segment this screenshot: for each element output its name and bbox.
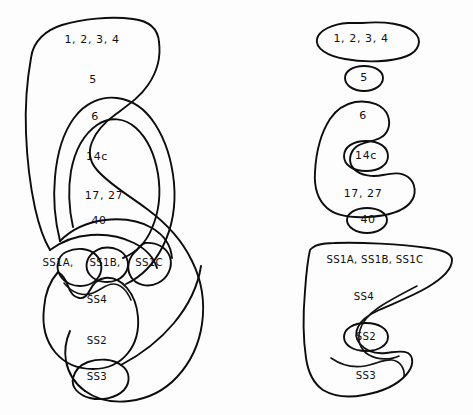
label-area-ss3-left: SS3 [87,371,107,382]
label-areas-1-2-3-4-left: 1, 2, 3, 4 [65,33,120,46]
label-area-ss2-left: SS2 [87,335,107,346]
label-area-14c-right: 14c [355,149,377,162]
label-area-ss4-left: SS4 [87,294,107,305]
contour-outer-left [31,18,203,402]
contour-outer-left-lower [65,331,85,391]
label-area-ss2-right: SS2 [356,331,376,342]
right-panel-contours [304,22,452,396]
contour-ss4-ss2 [43,272,138,369]
right-panel-labels: 1, 2, 3, 4 5 6 14c 17, 27 40 SS1A, SS1B,… [326,32,423,381]
label-area-6-right: 6 [359,109,367,122]
label-area-5-right: 5 [360,71,368,84]
label-areas-17-27-right: 17, 27 [344,187,383,200]
label-areas-17-27-left: 17, 27 [85,189,124,202]
label-areas-1-2-3-4-right: 1, 2, 3, 4 [334,32,389,45]
label-area-ss1c-left: SS1C [135,257,163,268]
label-areas-ss1abc-right: SS1A, SS1B, SS1C [326,254,423,265]
contour-r-lower-outline [304,243,452,397]
left-panel-contours [26,18,203,402]
label-area-5-left: 5 [89,73,97,86]
label-area-40-left: 40 [91,214,106,227]
label-area-ss3-right: SS3 [356,370,376,381]
label-area-6-left: 6 [91,110,99,123]
figure-container: 1, 2, 3, 4 5 6 14c 17, 27 40 SS1A, SS1B,… [0,0,473,415]
label-area-40-right: 40 [360,213,375,226]
label-area-ss1a-left: SS1A, [42,257,73,268]
contour-band-40 [60,219,172,258]
label-area-ss1b-left: SS1B, [89,257,120,268]
label-area-ss4-right: SS4 [354,291,374,302]
contour-diagram: 1, 2, 3, 4 5 6 14c 17, 27 40 SS1A, SS1B,… [0,0,473,415]
label-area-14c-left: 14c [86,150,108,163]
contour-outer-left-flank [26,58,50,250]
